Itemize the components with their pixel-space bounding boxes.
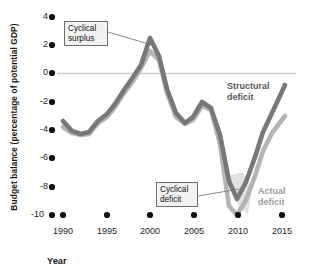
y-tick-label: -4 [22, 124, 48, 134]
x-tick-label: 1990 [43, 226, 83, 236]
x-tick-label: 2000 [130, 226, 170, 236]
y-tick-label: 4 [22, 11, 48, 21]
y-tick-label: -10 [18, 209, 44, 219]
series-label-line-2: deficit [227, 92, 270, 103]
y-tick-label: 0 [22, 67, 48, 77]
series-label-structural-deficit: Structural deficit [227, 81, 270, 102]
chart-container: 4 2 0 -2 -4 -6 -8 -10 1990 1995 2000 200… [0, 0, 310, 277]
annotation-cyclical-deficit: Cyclical deficit [156, 182, 198, 207]
x-tick-label: 2015 [262, 226, 302, 236]
y-tick-label: -8 [22, 181, 48, 191]
series-label-line-1: Structural [227, 81, 270, 92]
annotation-line-1: Cyclical [68, 24, 104, 34]
y-tick-label: 2 [22, 39, 48, 49]
series-line-structural-deficit [63, 38, 285, 199]
annotation-cyclical-surplus: Cyclical surplus [64, 21, 108, 46]
x-tick-label: 2005 [174, 226, 214, 236]
annotation-line-2: deficit [160, 195, 194, 205]
series-label-actual-deficit: Actual deficit [258, 186, 286, 207]
y-tick-label: -6 [22, 152, 48, 162]
series-label-line-1: Actual [258, 186, 286, 197]
x-tick-label: 2010 [218, 226, 258, 236]
y-tick-label: -2 [22, 96, 48, 106]
annotation-line-1: Cyclical [160, 185, 194, 195]
callout-leader-cyclical-surplus [108, 32, 152, 45]
x-tick-label: 1995 [87, 226, 127, 236]
annotation-line-2: surplus [68, 34, 104, 44]
series-label-line-2: deficit [258, 197, 286, 208]
y-axis-title: Budget balance (percentage of potential … [9, 17, 19, 217]
x-axis-title: Year [47, 256, 67, 266]
